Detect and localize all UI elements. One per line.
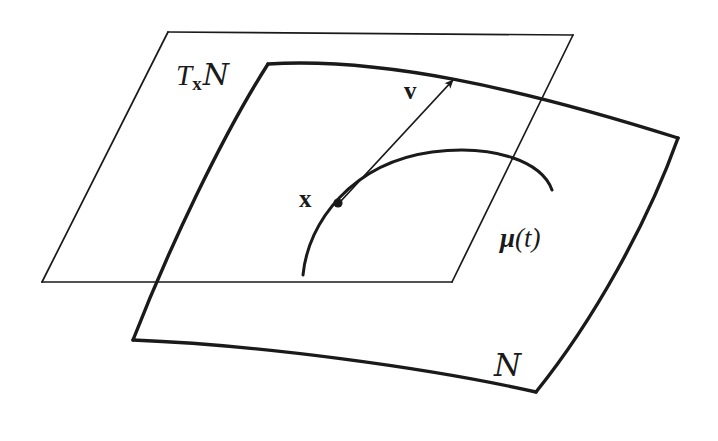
- tangent-plane-edge-left: [42, 32, 168, 282]
- curve-label-parameter: t: [524, 223, 532, 253]
- diagram-canvas: [0, 0, 718, 441]
- tangent-space-label: TxN: [176, 60, 229, 93]
- manifold-edge-left: [133, 64, 268, 340]
- curve-mu-path: [303, 150, 552, 275]
- manifold-surface-group: [133, 63, 678, 392]
- curve-label-close-paren: ): [532, 223, 541, 253]
- manifold-edge-top: [268, 63, 678, 138]
- tangent-plane-edge-top: [168, 32, 573, 35]
- manifold-edge-right: [536, 138, 678, 392]
- manifold-edge-bottom: [133, 340, 536, 392]
- base-point-dot: [333, 198, 342, 207]
- tangent-space-diagram: TxN v x μ(t) N: [0, 0, 718, 441]
- tangent-space-label-subscript: x: [192, 73, 202, 94]
- tangent-plane-group: [42, 32, 573, 282]
- tangent-space-label-base: T: [176, 59, 192, 91]
- manifold-label: N: [494, 350, 521, 381]
- curve-label-symbol: μ: [500, 223, 515, 253]
- curve-label-open-paren: (: [515, 223, 524, 253]
- tangent-space-label-manifold: N: [203, 57, 229, 92]
- tangent-vector-label: v: [404, 78, 417, 103]
- tangent-vector-shaft: [340, 80, 453, 202]
- curve-label: μ(t): [500, 225, 541, 252]
- base-point-label: x: [299, 186, 312, 211]
